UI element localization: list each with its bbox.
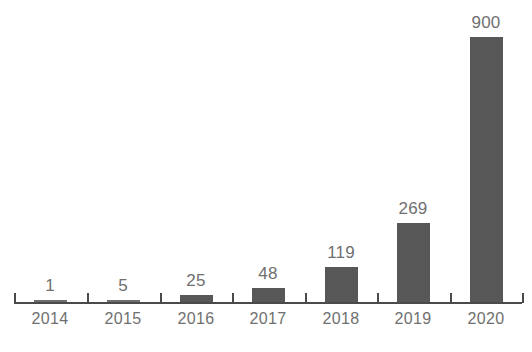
x-axis-label-2017: 2017 [228,309,308,328]
bar-2017[interactable] [252,288,285,302]
bar-value-label-2016: 25 [161,271,231,291]
x-axis-label-2020: 2020 [446,309,526,328]
bar-value-label-2018: 119 [306,243,376,263]
bar-2016[interactable] [180,295,213,302]
bar-value-label-2019: 269 [378,199,448,219]
bar-2014[interactable] [34,300,67,302]
x-axis-tick [160,293,162,303]
x-axis-label-2019: 2019 [373,309,453,328]
x-axis-label-2018: 2018 [301,309,381,328]
x-axis-tick [305,293,307,303]
x-axis-label-2014: 2014 [10,309,90,328]
x-axis-tick [522,293,524,303]
bar-2018[interactable] [325,267,358,302]
x-axis-tick [232,293,234,303]
bar-2020[interactable] [470,37,503,302]
x-axis-tick [450,293,452,303]
x-axis-tick [377,293,379,303]
bar-2019[interactable] [397,223,430,302]
bar-value-label-2015: 5 [88,276,158,296]
x-axis-label-2015: 2015 [83,309,163,328]
x-axis-label-2016: 2016 [156,309,236,328]
clipped-caption [0,341,532,352]
bar-2015[interactable] [107,300,140,302]
plot-area: 1 5 25 48 119 269 900 2014 2015 2016 201… [0,0,532,352]
x-axis-line [14,302,522,304]
bar-value-label-2020: 900 [451,13,521,33]
bar-chart: 1 5 25 48 119 269 900 2014 2015 2016 201… [0,0,532,352]
bar-value-label-2017: 48 [233,264,303,284]
bar-value-label-2014: 1 [15,276,85,296]
